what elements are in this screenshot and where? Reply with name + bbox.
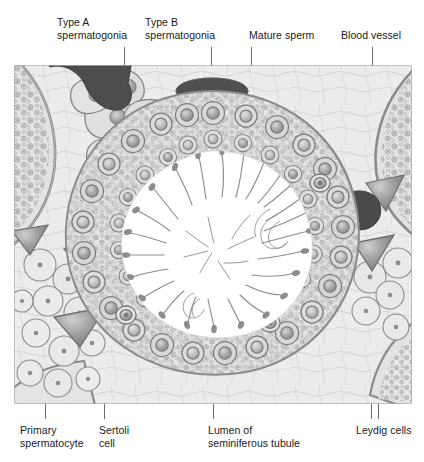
label-type-a-spermatogonia: Type A spermatogonia <box>57 16 127 41</box>
label-sertoli-cell: Sertoli cell <box>99 424 129 449</box>
label-leydig-cells: Leydig cells <box>356 424 411 437</box>
label-mature-sperm: Mature sperm <box>249 29 314 42</box>
label-lumen-of-seminiferous-tubule: Lumen of seminiferous tubule <box>208 424 300 449</box>
label-primary-spermatocyte: Primary spermatocyte <box>20 424 84 449</box>
label-blood-vessel: Blood vessel <box>341 29 401 42</box>
histology-illustration <box>14 65 412 404</box>
label-type-b-spermatogonia: Type B spermatogonia <box>145 16 215 41</box>
lumen-of-seminiferous-tubule <box>122 151 313 338</box>
seminiferous-tubule-figure: Type A spermatogonia Type B spermatogoni… <box>0 0 424 462</box>
